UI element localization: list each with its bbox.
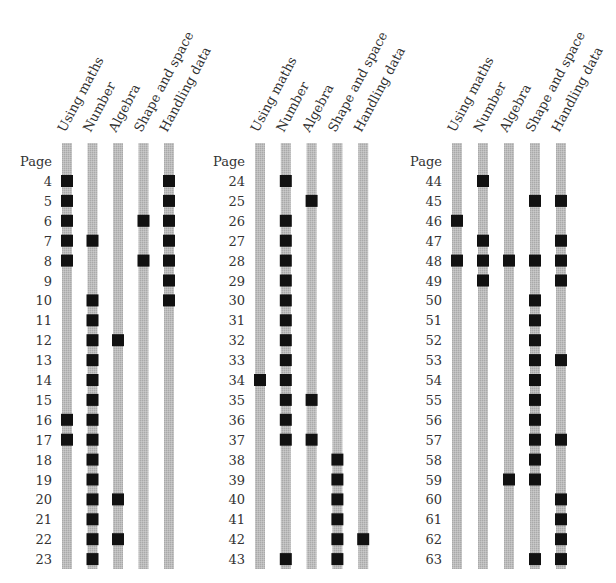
page-number-label: 26 [228, 214, 245, 229]
page-number-label: 63 [425, 552, 442, 567]
page-number-label: 62 [425, 532, 442, 547]
coverage-mark [529, 314, 541, 326]
page-number-label: 45 [425, 194, 442, 209]
coverage-mark [280, 215, 292, 227]
page-number-label: 38 [228, 453, 245, 468]
coverage-mark [477, 255, 489, 267]
coverage-mark [331, 474, 343, 486]
coverage-mark [280, 235, 292, 247]
coverage-mark [112, 533, 124, 545]
curriculum-coverage-chart: Using mathsNumberAlgebraShape and spaceH… [0, 0, 616, 583]
page-number-label: 14 [35, 373, 52, 388]
category-bar [139, 143, 149, 569]
coverage-mark [163, 235, 175, 247]
page-number-label: 6 [44, 214, 52, 229]
page-number-label: 52 [425, 333, 442, 348]
coverage-mark [306, 394, 318, 406]
coverage-mark [555, 553, 567, 565]
page-number-label: 28 [228, 254, 245, 269]
coverage-mark [477, 235, 489, 247]
page-header-label: Page [410, 154, 442, 169]
page-number-label: 34 [228, 373, 245, 388]
coverage-mark [61, 235, 73, 247]
coverage-mark [61, 215, 73, 227]
page-number-label: 9 [44, 274, 52, 289]
coverage-mark [555, 513, 567, 525]
page-number-label: 48 [425, 254, 442, 269]
coverage-mark [280, 434, 292, 446]
page-number-label: 15 [35, 393, 52, 408]
coverage-mark [529, 334, 541, 346]
coverage-mark [555, 434, 567, 446]
page-number-label: 61 [425, 512, 442, 527]
coverage-mark [529, 354, 541, 366]
coverage-mark [280, 255, 292, 267]
page-number-label: 46 [425, 214, 442, 229]
coverage-mark [163, 275, 175, 287]
coverage-mark [280, 294, 292, 306]
coverage-mark [280, 414, 292, 426]
page-number-label: 5 [44, 194, 52, 209]
coverage-mark [280, 394, 292, 406]
page-number-label: 42 [228, 532, 245, 547]
coverage-mark [555, 354, 567, 366]
page-number-label: 7 [44, 234, 52, 249]
page-number-label: 27 [228, 234, 245, 249]
page-group-1: Using mathsNumberAlgebraShape and spaceH… [20, 29, 214, 569]
coverage-mark [138, 215, 150, 227]
page-header-label: Page [20, 154, 52, 169]
category-bar [478, 143, 488, 569]
coverage-mark [529, 553, 541, 565]
coverage-mark [503, 474, 515, 486]
coverage-mark [87, 493, 99, 505]
page-number-label: 30 [228, 293, 245, 308]
coverage-mark [555, 235, 567, 247]
page-number-label: 21 [35, 512, 52, 527]
coverage-mark [163, 294, 175, 306]
coverage-mark [87, 235, 99, 247]
page-number-label: 39 [228, 473, 245, 488]
coverage-mark [87, 454, 99, 466]
coverage-mark [555, 493, 567, 505]
page-number-label: 33 [228, 353, 245, 368]
page-number-label: 13 [35, 353, 52, 368]
coverage-mark [87, 294, 99, 306]
coverage-mark [112, 334, 124, 346]
coverage-mark [331, 533, 343, 545]
coverage-mark [87, 354, 99, 366]
coverage-mark [477, 175, 489, 187]
coverage-mark [87, 553, 99, 565]
page-number-label: 35 [228, 393, 245, 408]
coverage-mark [331, 553, 343, 565]
coverage-mark [331, 454, 343, 466]
coverage-mark [555, 255, 567, 267]
page-number-label: 32 [228, 333, 245, 348]
coverage-mark [87, 394, 99, 406]
page-number-label: 20 [35, 492, 52, 507]
coverage-mark [306, 195, 318, 207]
page-number-label: 43 [228, 552, 245, 567]
coverage-mark [280, 354, 292, 366]
coverage-mark [555, 533, 567, 545]
coverage-mark [529, 434, 541, 446]
page-number-label: 10 [35, 293, 52, 308]
page-number-label: 22 [35, 532, 52, 547]
coverage-mark [87, 414, 99, 426]
page-number-label: 55 [425, 393, 442, 408]
coverage-mark [555, 275, 567, 287]
page-number-label: 29 [228, 274, 245, 289]
category-bar [358, 143, 368, 569]
page-group-3: Using mathsNumberAlgebraShape and spaceH… [410, 29, 606, 569]
page-number-label: 60 [425, 492, 442, 507]
coverage-mark [163, 195, 175, 207]
coverage-mark [112, 493, 124, 505]
coverage-mark [61, 195, 73, 207]
page-number-label: 17 [35, 433, 52, 448]
coverage-mark [87, 513, 99, 525]
coverage-mark [138, 255, 150, 267]
page-group-2: Using mathsNumberAlgebraShape and spaceH… [213, 29, 408, 569]
coverage-mark [529, 394, 541, 406]
coverage-mark [555, 195, 567, 207]
page-number-label: 57 [425, 433, 442, 448]
page-number-label: 4 [44, 174, 52, 189]
